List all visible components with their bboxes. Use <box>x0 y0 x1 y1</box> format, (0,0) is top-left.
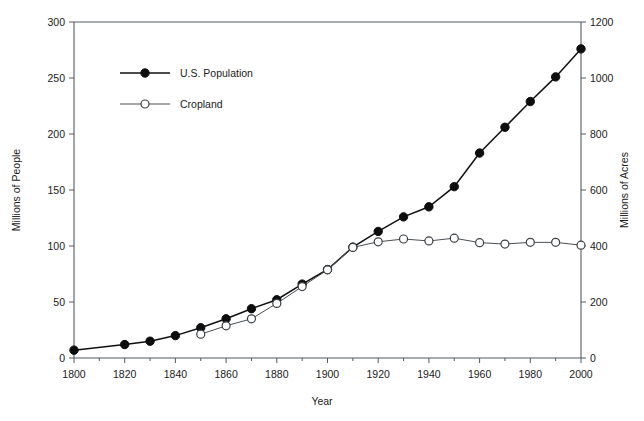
data-point-marker <box>146 337 154 345</box>
y-tick-label: 150 <box>47 184 65 196</box>
y-tick-label: 200 <box>47 128 65 140</box>
data-point-marker <box>577 241 585 249</box>
legend-marker-open-circle-icon <box>141 100 149 108</box>
data-point-marker <box>374 238 382 246</box>
y2-tick-label: 0 <box>590 352 596 364</box>
y-tick-label: 100 <box>47 240 65 252</box>
data-point-marker <box>526 238 534 246</box>
data-point-marker <box>425 203 433 211</box>
x-axis-title: Year <box>311 395 333 407</box>
y-tick-label: 300 <box>47 16 65 28</box>
x-tick-label: 1920 <box>367 368 391 380</box>
data-point-marker <box>298 283 306 291</box>
y2-tick-label: 1200 <box>590 16 614 28</box>
data-point-marker <box>171 331 179 339</box>
legend-marker-filled-circle-icon <box>141 69 149 77</box>
data-point-marker <box>399 213 407 221</box>
legend-label: Cropland <box>180 98 223 110</box>
data-point-marker <box>475 149 483 157</box>
x-tick-label: 1900 <box>316 368 340 380</box>
y2-tick-label: 600 <box>590 184 608 196</box>
data-point-marker <box>222 322 230 330</box>
line-chart: 1800182018401860188019001920194019601980… <box>0 0 644 421</box>
data-point-marker <box>450 182 458 190</box>
data-point-marker <box>324 266 332 274</box>
y-axis-title-left: Millions of People <box>10 149 22 231</box>
data-point-marker <box>273 299 281 307</box>
data-point-marker <box>425 237 433 245</box>
y2-tick-label: 200 <box>590 296 608 308</box>
x-tick-label: 1800 <box>62 368 86 380</box>
data-point-marker <box>450 234 458 242</box>
data-point-marker <box>501 240 509 248</box>
y2-tick-label: 800 <box>590 128 608 140</box>
x-tick-label: 1840 <box>164 368 188 380</box>
data-point-marker <box>476 239 484 247</box>
y2-tick-label: 400 <box>590 240 608 252</box>
y-tick-label: 50 <box>53 296 65 308</box>
x-tick-label: 2000 <box>569 368 593 380</box>
y-axis-title-right: Millions of Acres <box>618 152 630 228</box>
x-tick-label: 1880 <box>265 368 289 380</box>
x-tick-label: 1960 <box>468 368 492 380</box>
x-tick-label: 1860 <box>214 368 238 380</box>
data-point-marker <box>121 340 129 348</box>
data-point-marker <box>247 305 255 313</box>
chart-container: 1800182018401860188019001920194019601980… <box>0 0 644 421</box>
x-tick-label: 1820 <box>113 368 137 380</box>
data-point-marker <box>70 346 78 354</box>
y-tick-label: 0 <box>59 352 65 364</box>
y2-tick-label: 1000 <box>590 72 614 84</box>
data-point-marker <box>400 235 408 243</box>
x-tick-label: 1940 <box>417 368 441 380</box>
data-point-marker <box>374 227 382 235</box>
data-point-marker <box>551 73 559 81</box>
data-point-marker <box>526 97 534 105</box>
y-tick-label: 250 <box>47 72 65 84</box>
legend-label: U.S. Population <box>180 67 253 79</box>
data-point-marker <box>577 45 585 53</box>
x-tick-label: 1980 <box>519 368 543 380</box>
data-point-marker <box>501 123 509 131</box>
data-point-marker <box>247 315 255 323</box>
data-point-marker <box>552 238 560 246</box>
data-point-marker <box>349 243 357 251</box>
data-point-marker <box>197 330 205 338</box>
